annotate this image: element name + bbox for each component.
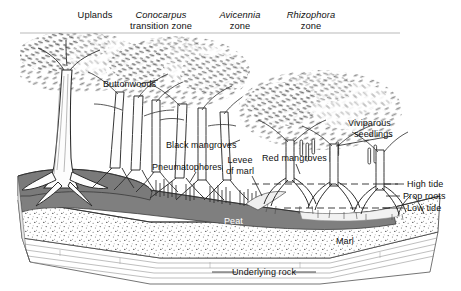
figure-canvas: Uplands Conocarpus transition zone Avice… bbox=[0, 0, 461, 291]
zone-header-rhizophora-genus: Rhizophora bbox=[287, 10, 336, 20]
zone-header-avicennia-sub: zone bbox=[230, 21, 251, 31]
zone-header-conocarpus-sub: transition zone bbox=[130, 21, 192, 31]
label-viviparous-line2: seedlings bbox=[354, 129, 393, 140]
label-peat: Peat bbox=[224, 216, 243, 227]
zone-header-conocarpus-genus: Conocarpus bbox=[135, 10, 186, 20]
label-levee-line2: of marl bbox=[226, 166, 254, 176]
zone-header-rhizophora: Rhizophora zone bbox=[287, 10, 336, 31]
label-black-mangroves: Black mangroves bbox=[166, 140, 237, 151]
label-high-tide: High tide bbox=[407, 179, 443, 190]
label-levee-of-marl: Levee of marl bbox=[226, 155, 254, 176]
label-underlying-rock: Underlying rock bbox=[232, 267, 296, 278]
zone-header-avicennia-genus: Avicennia bbox=[219, 10, 260, 20]
zone-header-avicennia: Avicennia zone bbox=[219, 10, 260, 31]
label-prop-roots: Prop roots bbox=[403, 191, 446, 202]
zone-header-uplands-text: Uplands bbox=[78, 10, 113, 20]
zone-header-rhizophora-sub: zone bbox=[301, 21, 322, 31]
zone-header-conocarpus: Conocarpus transition zone bbox=[130, 10, 192, 31]
label-viviparous-line1: Viviparous bbox=[348, 118, 391, 128]
label-low-tide: Low tide bbox=[407, 203, 441, 214]
label-buttonwoods: Buttonwoods bbox=[103, 79, 156, 90]
label-viviparous-seedlings: Viviparous seedlings bbox=[348, 118, 393, 139]
label-levee-line1: Levee bbox=[227, 155, 252, 165]
zone-header-uplands: Uplands bbox=[78, 10, 113, 21]
label-pneumatophores: Pneumatophores bbox=[152, 162, 222, 173]
label-marl: Marl bbox=[336, 236, 354, 247]
label-red-mangroves: Red mangroves bbox=[262, 153, 327, 164]
